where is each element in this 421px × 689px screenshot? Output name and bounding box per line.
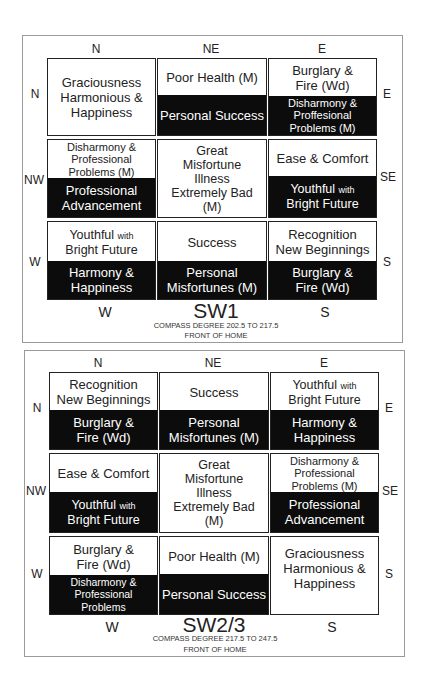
- cell-n: Recognition New Beginnings Burglary & Fi…: [49, 372, 158, 450]
- cell-e-e: Burglary & Fire (Wd) Disharmony & Proffe…: [268, 58, 377, 136]
- cell-bottom-text: Disharmony & Proffesional Problems (M): [269, 96, 376, 135]
- cell-bottom-text: Personal Success: [160, 574, 268, 614]
- cell-top-text: Youthful with Bright Future: [271, 373, 378, 411]
- left-label-nw: NW: [19, 173, 49, 187]
- cell-bottom-text: Burglary & Fire (Wd): [50, 410, 157, 449]
- cell-top-text: Disharmony & Professional Problems (M): [48, 140, 155, 179]
- sw1-diagram-panel: N NE E N NW W E SE S Graciousness Harmon…: [22, 35, 403, 343]
- cell-top-text: Recognition New Beginnings: [269, 222, 376, 262]
- cell-bottom-text: Disharmony & Professional Problems: [50, 575, 157, 614]
- left-label-nw: NW: [21, 484, 51, 498]
- cell-bottom-text: Harmony & Happiness: [48, 261, 155, 299]
- line-main: Youthful: [292, 378, 337, 392]
- line-small: with: [341, 381, 357, 391]
- cell-bottom-text: Harmony & Happiness: [271, 410, 378, 449]
- cell-top-text: Success: [160, 373, 268, 411]
- cell-top-text: Ease & Comfort: [50, 454, 157, 493]
- cell-se: Disharmony & Professional Problems (M) P…: [270, 453, 379, 533]
- top-label-n: N: [83, 356, 113, 370]
- cell-nw: Ease & Comfort Youthful with Bright Futu…: [49, 453, 158, 533]
- cell-sw: Poor Health (M) Personal Success: [159, 536, 269, 615]
- diagram-title: SW1: [156, 300, 276, 322]
- line-2: Bright Future: [65, 243, 137, 257]
- cell-bottom-text: Professional Advancement: [48, 178, 155, 217]
- cell-bottom-text: Personal Success: [158, 95, 266, 135]
- cell-text: Great Misfortune Illness Extremely Bad (…: [160, 454, 268, 532]
- left-label-w: W: [20, 255, 50, 269]
- cell-bottom-text: Personal Misfortunes (M): [160, 410, 268, 449]
- cell-se: Ease & Comfort Youthful with Bright Futu…: [268, 139, 377, 218]
- cell-e: Youthful with Bright Future Harmony & Ha…: [270, 372, 379, 450]
- front-of-home: FRONT OF HOME: [115, 644, 315, 655]
- line-main: Youthful: [290, 182, 335, 196]
- top-label-e: E: [309, 356, 339, 370]
- left-label-w: W: [22, 567, 52, 581]
- left-label-n: N: [22, 401, 52, 415]
- left-label-n: N: [20, 87, 50, 101]
- line-small: with: [120, 501, 136, 511]
- compass-degree: COMPASS DEGREE 217.5 TO 247.5: [115, 633, 315, 644]
- cell-top-text: Ease & Comfort: [269, 140, 376, 177]
- top-label-ne: NE: [196, 42, 226, 56]
- cell-s: Recognition New Beginnings Burglary & Fi…: [268, 221, 377, 300]
- cell-top-text: Burglary & Fire (Wd): [50, 537, 157, 576]
- right-label-se: SE: [375, 484, 405, 498]
- cell-top-text: Disharmony & Professional Problems (M): [271, 454, 378, 493]
- cell-w: Youthful with Bright Future Harmony & Ha…: [47, 221, 156, 300]
- line-main: Youthful: [69, 228, 114, 242]
- bottom-label-s: S: [310, 305, 340, 319]
- line-2: Bright Future: [286, 197, 358, 211]
- cell-bottom-text: Professional Advancement: [271, 492, 378, 532]
- cell-top-text: Burglary & Fire (Wd): [269, 59, 376, 97]
- cell-top-text: Poor Health (M): [158, 59, 266, 96]
- cell-center: Great Misfortune Illness Extremely Bad (…: [157, 139, 267, 218]
- top-label-n: N: [81, 42, 111, 56]
- cell-text: Graciousness Harmonious & Happiness: [48, 59, 155, 135]
- cell-ne: Success Personal Misfortunes (M): [159, 372, 269, 450]
- cell-top-text: Poor Health (M): [160, 537, 268, 575]
- cell-text: Great Misfortune Illness Extremely Bad (…: [158, 140, 266, 217]
- front-of-home: FRONT OF HOME: [116, 330, 316, 341]
- cell-top-text: Youthful with Bright Future: [48, 222, 155, 262]
- cell-nw: Disharmony & Professional Problems (M) P…: [47, 139, 156, 218]
- cell-center: Great Misfortune Illness Extremely Bad (…: [159, 453, 269, 533]
- cell-ne: Poor Health (M) Personal Success: [157, 58, 267, 136]
- right-label-se: SE: [373, 170, 403, 184]
- line-small: with: [339, 185, 355, 195]
- cell-w: Burglary & Fire (Wd) Disharmony & Profes…: [49, 536, 158, 615]
- bottom-label-w: W: [90, 305, 120, 319]
- line-2: Bright Future: [67, 513, 139, 527]
- top-label-ne: NE: [198, 356, 228, 370]
- cell-s: Graciousness Harmonious & Happiness: [270, 536, 379, 615]
- cell-top-text: Recognition New Beginnings: [50, 373, 157, 411]
- line-main: Youthful: [71, 498, 116, 512]
- cell-bottom-text: Youthful with Bright Future: [50, 492, 157, 532]
- cell-text: Graciousness Harmonious & Happiness: [271, 537, 378, 614]
- sw23-diagram-panel: N NE E N NW W E SE S Recognition New Beg…: [24, 350, 405, 657]
- line-small: with: [118, 231, 134, 241]
- cell-bottom-text: Burglary & Fire (Wd): [269, 261, 376, 299]
- cell-bottom-text: Personal Misfortunes (M): [158, 261, 266, 299]
- top-label-e: E: [307, 42, 337, 56]
- bottom-label-w: W: [97, 620, 127, 634]
- cell-sw: Success Personal Misfortunes (M): [157, 221, 267, 300]
- bottom-label-s: S: [317, 620, 347, 634]
- line-2: Bright Future: [288, 393, 360, 407]
- cell-bottom-text: Youthful with Bright Future: [269, 176, 376, 217]
- cell-top-text: Success: [158, 222, 266, 262]
- cell-n-n: Graciousness Harmonious & Happiness: [47, 58, 156, 136]
